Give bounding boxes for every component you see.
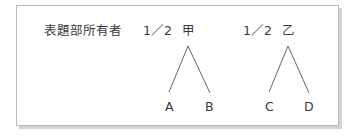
heir-a: A <box>165 100 174 114</box>
owner-1-left-branch <box>169 46 188 92</box>
heir-d: D <box>304 100 314 114</box>
heir-b: B <box>205 100 214 114</box>
owner-1-right-branch <box>188 46 210 93</box>
inheritance-lines <box>0 0 361 136</box>
owner-2-left-branch <box>269 46 288 92</box>
heir-c: C <box>265 100 274 114</box>
owner-2-right-branch <box>288 46 309 93</box>
